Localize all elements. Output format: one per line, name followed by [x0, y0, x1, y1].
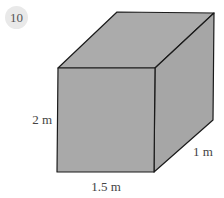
depth-label: 1 m: [193, 144, 213, 159]
height-label: 2 m: [32, 112, 52, 127]
cuboid-front-face: [57, 68, 155, 172]
width-label: 1.5 m: [91, 179, 121, 194]
cuboid-diagram: 2 m 1.5 m 1 m: [0, 0, 224, 198]
